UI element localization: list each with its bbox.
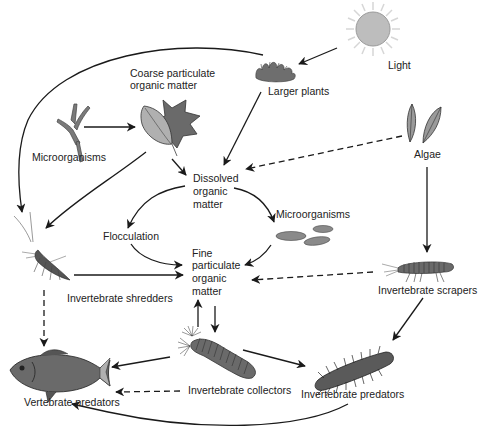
edge-scrapers-fpom xyxy=(252,272,373,280)
shrimp-shredder-icon xyxy=(14,212,70,280)
label-scrapers: Invertebrate scrapers xyxy=(378,284,477,297)
edge-light-plants xyxy=(299,48,337,64)
edge-collectors-vert-dashed xyxy=(116,391,180,392)
edge-collectors-invpred xyxy=(243,350,305,366)
fish-vertebrate-icon xyxy=(10,350,110,402)
label-invertebrate-predators: Invertebrate predators xyxy=(301,388,404,401)
collector-larva-icon xyxy=(178,326,255,378)
label-dom-2: organic xyxy=(193,185,227,198)
edge-plants-dom xyxy=(224,92,261,165)
edge-floc-fpom xyxy=(131,244,182,265)
ecosystem-diagram: Light Larger plants Coarse particulate o… xyxy=(0,0,480,436)
edge-coarse-dom xyxy=(172,159,186,175)
label-fpom-4: matter xyxy=(192,285,222,298)
edge-collectors-vert xyxy=(112,357,170,367)
edge-micro-fpom xyxy=(245,245,271,265)
label-algae: Algae xyxy=(414,148,441,161)
edge-dom-floc xyxy=(128,186,185,228)
label-dom-3: matter xyxy=(193,198,223,211)
label-fpom-3: organic xyxy=(192,272,226,285)
label-vertebrate-predators: Vertebrate predators xyxy=(24,396,120,409)
edge-scrapers-invpred xyxy=(393,298,423,340)
scraper-larva-icon xyxy=(382,262,454,282)
label-coarse-pom-1: Coarse particulate xyxy=(130,67,215,80)
sun-icon xyxy=(346,2,400,56)
label-fpom-1: Fine xyxy=(192,247,212,260)
label-light: Light xyxy=(388,59,411,72)
edge-algae-dom xyxy=(246,136,402,169)
label-microorganisms-left: Microorganisms xyxy=(32,151,106,164)
leaves-icon xyxy=(141,100,200,156)
label-shredders: Invertebrate shredders xyxy=(67,292,173,305)
microorganism-blobs-icon xyxy=(276,226,333,247)
label-larger-plants: Larger plants xyxy=(268,85,329,98)
algae-icon xyxy=(407,104,441,143)
label-dom-1: Dissolved xyxy=(193,172,239,185)
edge-dom-micro xyxy=(234,188,274,222)
label-fpom-2: particulate xyxy=(192,259,240,272)
label-flocculation: Flocculation xyxy=(103,230,159,243)
larger-plants-icon xyxy=(256,62,295,82)
label-microorganisms-right: Microorganisms xyxy=(276,208,350,221)
label-collectors: Invertebrate collectors xyxy=(188,384,291,397)
label-coarse-pom-2: organic matter xyxy=(130,79,197,92)
